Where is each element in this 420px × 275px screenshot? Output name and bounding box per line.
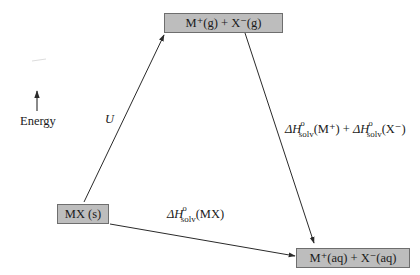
lattice-energy-arrow — [84, 35, 164, 202]
energy-axis-label: Energy — [20, 114, 56, 128]
hydration-term-anion: ΔHosolv(X⁻) — [353, 122, 406, 137]
lattice-energy-label: U — [105, 112, 114, 126]
stray-mark — [32, 59, 46, 61]
solid-label: MX (s) — [65, 207, 101, 221]
solid-box: MX (s) — [57, 204, 109, 224]
gas-ions-label: M⁺(g) + X⁻(g) — [186, 16, 262, 30]
solution-enthalpy-arrow — [110, 224, 295, 256]
hydration-enthalpy-label: ΔHosolv(M⁺) + ΔHosolv(X⁻) — [285, 122, 406, 137]
aqueous-ions-label: M⁺(aq) + X⁻(aq) — [310, 251, 397, 265]
gas-ions-box: M⁺(g) + X⁻(g) — [164, 13, 283, 33]
solution-enthalpy-label: ΔHosolv(MX) — [167, 207, 224, 222]
hydration-term-cation: ΔHosolv(M⁺) — [285, 122, 340, 137]
arrows-layer — [0, 0, 420, 275]
aqueous-ions-box: M⁺(aq) + X⁻(aq) — [296, 248, 410, 268]
energy-cycle-diagram: M⁺(g) + X⁻(g) MX (s) M⁺(aq) + X⁻(aq) Ene… — [0, 0, 420, 275]
